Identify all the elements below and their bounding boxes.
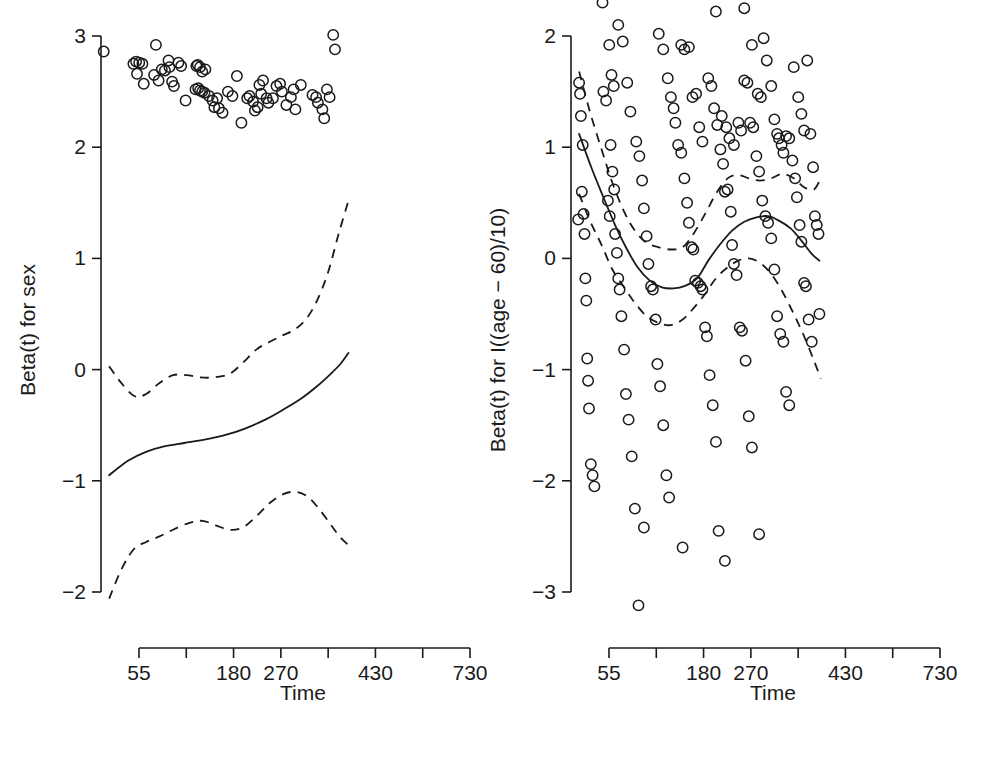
data-point (808, 162, 818, 172)
data-point (236, 118, 246, 128)
confidence-band-curve (109, 492, 348, 599)
data-point (807, 337, 817, 347)
fit-curve-right (579, 134, 819, 289)
data-point (668, 103, 678, 113)
y-axis-title-left: Beta(t) for sex (16, 264, 39, 396)
data-point (739, 3, 749, 13)
figure-container: 3210−1−2 55180270430730 Beta(t) for sex … (0, 0, 995, 761)
data-point (581, 295, 591, 305)
x-tick-label: 180 (686, 661, 721, 684)
data-point (805, 129, 815, 139)
data-point (740, 356, 750, 366)
data-point (762, 55, 772, 65)
data-point (589, 481, 599, 491)
data-point (789, 62, 799, 72)
data-point (139, 79, 149, 89)
x-axis-title-left: Time (280, 681, 326, 704)
data-point (663, 73, 673, 83)
data-point (582, 353, 592, 363)
data-point (163, 55, 173, 65)
data-point (717, 111, 727, 121)
data-point (802, 55, 812, 65)
data-point (727, 240, 737, 250)
data-point (754, 166, 764, 176)
data-point (658, 44, 668, 54)
data-point (711, 6, 721, 16)
data-point (176, 61, 186, 71)
data-point (763, 218, 773, 228)
data-point (612, 248, 622, 258)
data-point (679, 173, 689, 183)
data-point (781, 387, 791, 397)
confidence-band-curve (109, 201, 348, 397)
data-point (639, 522, 649, 532)
data-point (584, 403, 594, 413)
data-point (587, 470, 597, 480)
data-point (597, 0, 607, 8)
y-tick-label: −1 (532, 358, 556, 381)
data-point (637, 175, 647, 185)
data-point (682, 198, 692, 208)
chart-panel-right: 210−1−2−3 55180270430730 Beta(t) for I((… (470, 0, 967, 710)
data-point (784, 133, 794, 143)
plot-canvas-left: 3210−1−2 55180270430730 Beta(t) for sex … (0, 0, 497, 710)
x-axis-title-right: Time (750, 681, 796, 704)
chart-panel-left: 3210−1−2 55180270430730 Beta(t) for sex … (0, 0, 497, 710)
data-point (616, 311, 626, 321)
data-point (631, 136, 641, 146)
data-point (708, 400, 718, 410)
data-point (576, 111, 586, 121)
data-point (684, 218, 694, 228)
data-point (670, 118, 680, 128)
y-tick-label: 1 (74, 246, 86, 269)
data-point (633, 600, 643, 610)
x-tick-label: 55 (127, 661, 150, 684)
data-point (814, 309, 824, 319)
data-point (731, 270, 741, 280)
y-tick-label: 2 (74, 135, 86, 158)
data-point (655, 381, 665, 391)
data-point (751, 151, 761, 161)
data-point (328, 30, 338, 40)
data-point (634, 151, 644, 161)
data-point (664, 492, 674, 502)
data-point (658, 420, 668, 430)
data-point (618, 36, 628, 46)
data-point (704, 370, 714, 380)
data-point (99, 46, 109, 56)
data-point (622, 78, 632, 88)
data-point (623, 414, 633, 424)
data-point (769, 114, 779, 124)
data-point (784, 400, 794, 410)
data-point (574, 78, 584, 88)
fit-curve-left (109, 353, 348, 475)
confidence-bands-left (109, 201, 348, 599)
data-point (790, 173, 800, 183)
data-point (718, 159, 728, 169)
data-point (766, 81, 776, 91)
x-axis-left: 55180270430730 (127, 648, 487, 684)
data-point (715, 144, 725, 154)
data-point (643, 259, 653, 269)
data-point (766, 233, 776, 243)
scatter-points-left (99, 30, 341, 128)
data-point (619, 344, 629, 354)
x-tick-label: 430 (828, 661, 863, 684)
data-point (290, 104, 300, 114)
x-tick-label: 55 (597, 661, 620, 684)
data-point (769, 264, 779, 274)
data-point (747, 40, 757, 50)
data-point (654, 29, 664, 39)
data-point (754, 529, 764, 539)
data-point (772, 311, 782, 321)
data-point (737, 325, 747, 335)
data-point (583, 376, 593, 386)
data-point (604, 40, 614, 50)
data-point (630, 503, 640, 513)
data-point (677, 542, 687, 552)
y-tick-label: −2 (532, 469, 556, 492)
data-point (742, 78, 752, 88)
data-point (180, 95, 190, 105)
data-point (787, 155, 797, 165)
data-point (330, 44, 340, 54)
